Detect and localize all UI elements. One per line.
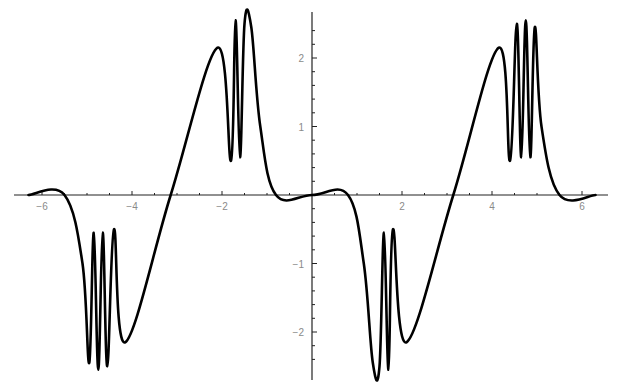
y-tick-label: −2	[293, 327, 305, 338]
line-chart: −6−4−2246−2−112	[0, 0, 623, 386]
y-tick-label: 1	[298, 122, 304, 133]
x-tick-label: 4	[489, 201, 495, 212]
x-tick-label: 2	[399, 201, 405, 212]
x-tick-label: 6	[579, 201, 585, 212]
x-tick-label: −6	[36, 201, 48, 212]
x-tick-label: −2	[216, 201, 228, 212]
y-tick-label: 2	[298, 53, 304, 64]
y-tick-label: −1	[293, 259, 305, 270]
x-tick-label: −4	[126, 201, 138, 212]
